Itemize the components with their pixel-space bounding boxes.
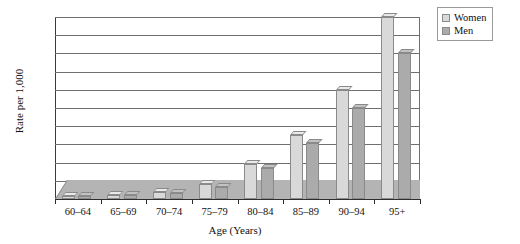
bar-group [55, 17, 101, 199]
bar-women-80–84 [244, 164, 257, 199]
bar-men-85–89 [306, 143, 319, 199]
bar-men-80–84 [261, 168, 274, 199]
x-axis-title: Age (Years) [0, 224, 470, 236]
x-tick-mark [101, 199, 102, 204]
bar-top [290, 131, 307, 135]
bar-face [290, 135, 303, 199]
bar-face [306, 143, 319, 199]
bar-top [306, 139, 323, 143]
x-tick-mark [329, 199, 330, 204]
bar-top [62, 192, 79, 196]
bar-top [244, 160, 261, 164]
legend-swatch-women [442, 14, 450, 22]
bar-face [261, 168, 274, 199]
x-tick-label: 85–89 [293, 206, 319, 217]
bar-men-95+ [398, 53, 411, 199]
legend: WomenMen [437, 7, 493, 41]
x-tick-mark [146, 199, 147, 204]
x-tick-label: 90–94 [338, 206, 364, 217]
legend-label: Women [454, 11, 486, 24]
bar-group [374, 17, 420, 199]
bar-top [78, 192, 95, 196]
bar-women-85–89 [290, 135, 303, 199]
bar-face [381, 17, 394, 199]
x-tick-mark [55, 199, 56, 204]
bar-men-90–94 [352, 108, 365, 199]
x-tick-mark [374, 199, 375, 204]
chart-figure: Rate per 1,000 0501001502002503003504004… [0, 0, 520, 244]
x-tick-label: 60–64 [65, 206, 91, 217]
bar-series-container [55, 17, 420, 199]
legend-label: Men [454, 24, 473, 37]
bar-men-75–79 [215, 187, 228, 199]
x-tick-mark [420, 199, 421, 204]
bar-top [199, 180, 216, 184]
bar-group [101, 17, 147, 199]
x-tick-label: 75–79 [202, 206, 228, 217]
bar-face [199, 184, 212, 199]
bar-group [238, 17, 284, 199]
x-tick-label: 70–74 [156, 206, 182, 217]
bar-women-75–79 [199, 184, 212, 199]
bar-face [398, 53, 411, 199]
x-tick-label: 95+ [389, 206, 405, 217]
bar-group [329, 17, 375, 199]
bar-top [170, 189, 187, 193]
bar-group [283, 17, 329, 199]
bar-top [352, 104, 369, 108]
bar-top [381, 13, 398, 17]
legend-item-women[interactable]: Women [442, 11, 486, 24]
bar-top [398, 49, 415, 53]
bar-face [215, 187, 228, 199]
bar-face [153, 192, 166, 199]
bar-face [244, 164, 257, 199]
bar-top [261, 164, 278, 168]
x-tick-mark [238, 199, 239, 204]
bar-top [215, 183, 232, 187]
bar-women-95+ [381, 17, 394, 199]
bar-top [153, 188, 170, 192]
bar-top [336, 86, 353, 90]
x-tick-label: 80–84 [247, 206, 273, 217]
legend-swatch-men [442, 27, 450, 35]
bar-face [336, 90, 349, 199]
x-tick-mark [192, 199, 193, 204]
bar-women-90–94 [336, 90, 349, 199]
x-tick-label: 65–69 [110, 206, 136, 217]
bar-face [352, 108, 365, 199]
bar-group [146, 17, 192, 199]
legend-item-men[interactable]: Men [442, 24, 486, 37]
bar-women-70–74 [153, 192, 166, 199]
bar-group [192, 17, 238, 199]
bar-top [124, 191, 141, 195]
bar-top [107, 191, 124, 195]
y-axis-title: Rate per 1,000 [13, 41, 25, 161]
x-tick-mark [283, 199, 284, 204]
